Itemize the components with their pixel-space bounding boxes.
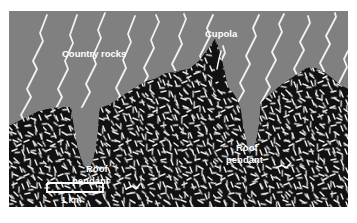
label-roof-pendant-right-line2: pendant [226,154,264,165]
label-roof-pendant-left-line1: Roof [86,163,108,174]
figure-root: Country rocks Cupola Roof pendant Roof p… [0,0,357,223]
geologic-cross-section-diagram: Country rocks Cupola Roof pendant Roof p… [9,11,348,207]
label-cupola: Cupola [205,28,238,39]
label-roof-pendant-right-line1: Roof [236,142,258,153]
scale-bar-label: 1 km [61,195,82,205]
label-roof-pendant-left-line2: pendant [72,175,110,186]
label-country-rocks: Country rocks [62,48,126,59]
